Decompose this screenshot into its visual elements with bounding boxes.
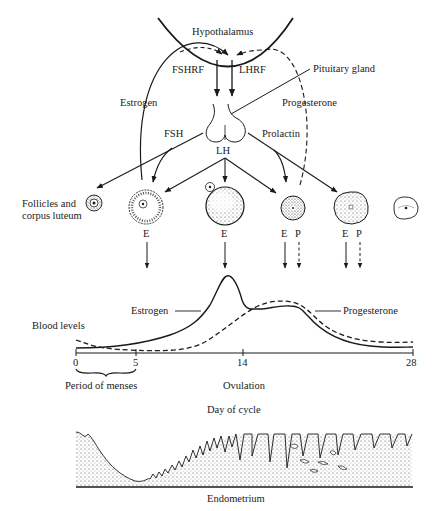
follicles-label-line2: corpus luteum xyxy=(22,210,82,222)
tick-label-28: 28 xyxy=(406,357,417,369)
lh-label: LH xyxy=(216,145,230,157)
tick-label-14: 14 xyxy=(237,357,248,369)
corpus-albicans-stage-6 xyxy=(394,197,418,219)
progesterone-curve-label: Progesterone xyxy=(343,305,398,317)
follicles-label-line1: Follicles and xyxy=(22,198,76,210)
estrogen-feedback-label: Estrogen xyxy=(120,97,157,109)
corpus-luteum-stage-5 xyxy=(334,192,368,224)
prolactin-label: Prolactin xyxy=(262,128,300,140)
hormone-output-e: E xyxy=(342,228,348,240)
estrogen-curve-label: Estrogen xyxy=(131,305,168,317)
hypothalamus-label: Hypothalamus xyxy=(192,26,253,38)
hormone-output-e: E xyxy=(143,228,149,240)
hormone-output-e: E xyxy=(221,228,227,240)
ovulation-label: Ovulation xyxy=(223,380,265,392)
follicle-stage-2 xyxy=(129,190,163,224)
hormone-output-e: E xyxy=(281,228,287,240)
follicle-stage-1 xyxy=(86,195,102,211)
menstrual-cycle-diagram xyxy=(0,0,439,511)
period-of-menses-label: Period of menses xyxy=(65,380,137,392)
day-of-cycle-label: Day of cycle xyxy=(207,404,261,416)
lhrf-label: LHRF xyxy=(239,64,266,76)
pituitary-gland-label: Pituitary gland xyxy=(313,63,375,75)
fsh-label: FSH xyxy=(164,128,183,140)
menses-brace xyxy=(76,369,136,376)
endometrium-label: Endometrium xyxy=(207,493,265,505)
fshrf-label: FSHRF xyxy=(172,64,204,76)
hormone-output-p: P xyxy=(356,228,362,240)
progesterone-feedback-label: Progesterone xyxy=(282,97,337,109)
tick-label-5: 5 xyxy=(133,357,138,369)
hormone-output-p: P xyxy=(295,228,301,240)
tick-label-0: 0 xyxy=(73,357,78,369)
corpus-luteum-stage-4 xyxy=(281,196,305,220)
endometrium-illustration xyxy=(76,432,413,487)
follicle-stage-3 xyxy=(206,183,245,226)
blood-levels-label: Blood levels xyxy=(32,320,85,332)
